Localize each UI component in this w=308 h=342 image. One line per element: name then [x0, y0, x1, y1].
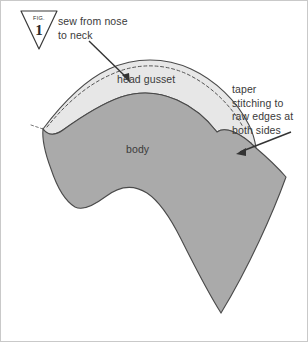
left-taper-dash — [31, 125, 43, 129]
figure-badge-number: 1 — [20, 23, 58, 38]
pattern-diagram-svg — [1, 1, 308, 342]
label-body: body — [126, 143, 149, 155]
figure-badge-caption: FIG. — [20, 15, 58, 21]
label-head-gusset: head gusset — [117, 73, 175, 85]
annotation-sew-from-nose-to-neck: sew from nose to neck — [58, 15, 128, 42]
figure-canvas: FIG. 1 sew from nose to neck taper stitc… — [0, 0, 308, 342]
annotation-taper-stitching: taper stitching to raw edges at both sid… — [232, 83, 293, 137]
